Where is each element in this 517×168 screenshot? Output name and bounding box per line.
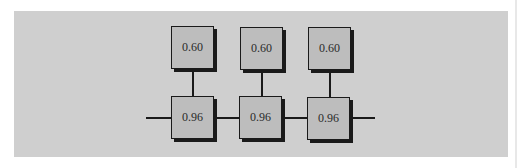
input-line	[146, 117, 171, 119]
component-label: 0.96	[250, 110, 271, 125]
top-component-2: 0.60	[240, 27, 283, 70]
bottom-component-1: 0.96	[171, 96, 214, 139]
top-component-1: 0.60	[171, 26, 214, 69]
component-label: 0.60	[251, 41, 272, 56]
connector-line-2-3	[285, 117, 308, 119]
bottom-component-2: 0.96	[239, 96, 282, 139]
vertical-connector-2	[261, 70, 263, 97]
component-label: 0.60	[182, 40, 203, 55]
top-component-3: 0.60	[308, 27, 351, 70]
bottom-component-3: 0.96	[307, 97, 350, 140]
component-label: 0.60	[319, 41, 340, 56]
component-label: 0.96	[318, 111, 339, 126]
output-line	[353, 117, 375, 119]
vertical-connector-1	[192, 70, 194, 97]
connector-line-1-2	[216, 117, 240, 119]
vertical-connector-3	[329, 70, 331, 97]
component-label: 0.96	[182, 110, 203, 125]
